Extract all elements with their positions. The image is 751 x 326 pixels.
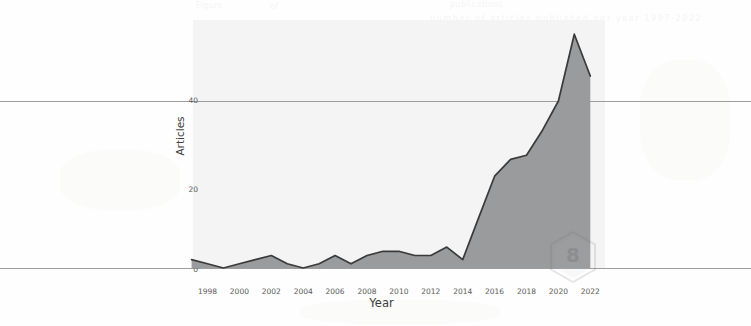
xtick-label-2012: 2012: [416, 287, 446, 296]
xtick-label-2000: 2000: [224, 287, 254, 296]
xtick-label-2014: 2014: [448, 287, 478, 296]
x-axis-title-text: Year: [369, 296, 393, 310]
xtick-label-2010: 2010: [384, 287, 414, 296]
xtick-label-1998: 1998: [193, 287, 223, 296]
xtick-label-2004: 2004: [288, 287, 318, 296]
xtick-label-2008: 2008: [352, 287, 382, 296]
articles-per-year-area-chart: 40 20 0 Articles 8 199820002002200420062…: [0, 0, 751, 326]
xtick-label-2022: 2022: [575, 287, 605, 296]
xtick-label-2016: 2016: [480, 287, 510, 296]
xtick-label-2002: 2002: [256, 287, 286, 296]
xtick-label-2018: 2018: [512, 287, 542, 296]
area-series-articles: [0, 0, 751, 326]
xtick-label-2006: 2006: [320, 287, 350, 296]
x-axis-title: Year: [0, 296, 751, 310]
xtick-label-2020: 2020: [543, 287, 573, 296]
